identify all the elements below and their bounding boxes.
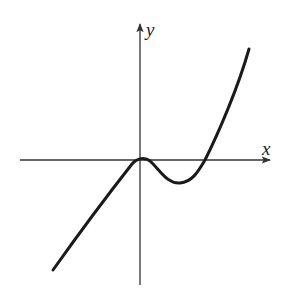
x-axis-label: x [261,138,271,159]
y-axis-label: y [144,19,155,40]
function-graph: y x [0,0,284,298]
